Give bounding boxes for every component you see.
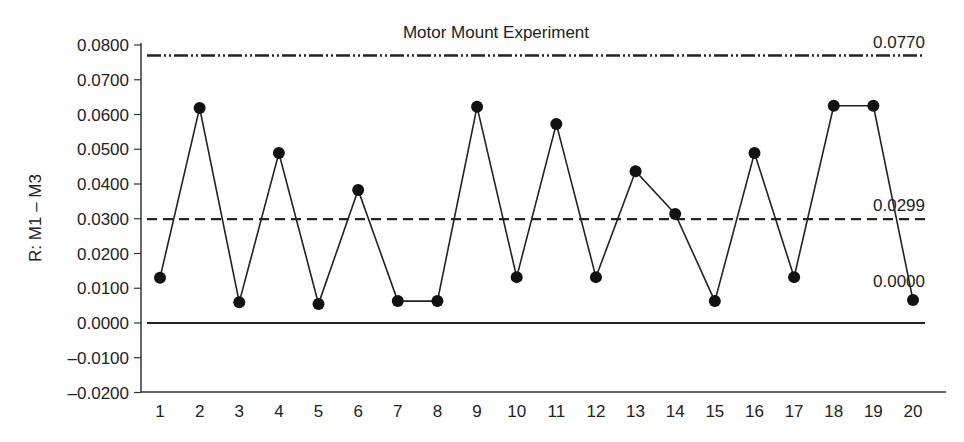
data-point bbox=[788, 271, 800, 283]
x-tick-label: 6 bbox=[353, 402, 362, 421]
chart-title: Motor Mount Experiment bbox=[403, 23, 589, 42]
data-point bbox=[471, 101, 483, 113]
y-tick-label: 0.0200 bbox=[77, 245, 129, 264]
data-point bbox=[154, 272, 166, 284]
data-point bbox=[669, 208, 681, 220]
x-tick-label: 12 bbox=[586, 402, 605, 421]
data-point bbox=[431, 295, 443, 307]
data-point bbox=[233, 296, 245, 308]
y-tick-label: 0.0100 bbox=[77, 279, 129, 298]
data-point bbox=[511, 271, 523, 283]
x-tick-label: 2 bbox=[195, 402, 204, 421]
y-tick-label: 0.0500 bbox=[77, 140, 129, 159]
data-point bbox=[590, 271, 602, 283]
x-tick-label: 19 bbox=[864, 402, 883, 421]
data-point bbox=[550, 118, 562, 130]
axes: 0.08000.07000.06000.05000.04000.03000.02… bbox=[68, 36, 946, 421]
data-point bbox=[352, 184, 364, 196]
data-point bbox=[867, 100, 879, 112]
x-tick-label: 7 bbox=[393, 402, 402, 421]
x-tick-label: 5 bbox=[314, 402, 323, 421]
y-tick-label: 0.0700 bbox=[77, 71, 129, 90]
y-tick-label: 0.0600 bbox=[77, 106, 129, 125]
data-point bbox=[748, 147, 760, 159]
y-tick-label: 0.0400 bbox=[77, 175, 129, 194]
y-tick-label: 0.0300 bbox=[77, 210, 129, 229]
x-tick-label: 8 bbox=[433, 402, 442, 421]
series-line bbox=[160, 106, 913, 304]
y-tick-label: 0.0800 bbox=[77, 36, 129, 55]
x-tick-label: 13 bbox=[626, 402, 645, 421]
data-point bbox=[313, 298, 325, 310]
data-point bbox=[709, 295, 721, 307]
x-tick-label: 1 bbox=[155, 402, 164, 421]
y-tick-label: –0.0100 bbox=[68, 349, 129, 368]
x-tick-label: 17 bbox=[785, 402, 804, 421]
x-tick-label: 3 bbox=[235, 402, 244, 421]
y-tick-label: 0.0000 bbox=[77, 314, 129, 333]
center-label: 0.0299 bbox=[873, 196, 925, 215]
y-tick-label: –0.0200 bbox=[68, 384, 129, 403]
data-point bbox=[392, 295, 404, 307]
control-limits: 0.07700.02990.0000 bbox=[147, 33, 925, 323]
data-point bbox=[630, 165, 642, 177]
ucl-label: 0.0770 bbox=[873, 33, 925, 52]
lcl-label: 0.0000 bbox=[873, 272, 925, 291]
x-tick-label: 15 bbox=[705, 402, 724, 421]
data-point bbox=[273, 147, 285, 159]
data-point bbox=[828, 100, 840, 112]
x-tick-label: 9 bbox=[472, 402, 481, 421]
x-tick-label: 14 bbox=[666, 402, 685, 421]
x-tick-label: 20 bbox=[904, 402, 923, 421]
x-tick-label: 4 bbox=[274, 402, 283, 421]
x-tick-label: 10 bbox=[507, 402, 526, 421]
data-series bbox=[154, 100, 919, 310]
data-point bbox=[907, 294, 919, 306]
y-axis-label: R: M1 – M3 bbox=[26, 174, 45, 262]
control-chart: Motor Mount Experiment R: M1 – M3 0.0800… bbox=[0, 0, 964, 442]
x-tick-label: 18 bbox=[824, 402, 843, 421]
x-tick-label: 16 bbox=[745, 402, 764, 421]
x-tick-label: 11 bbox=[547, 402, 565, 421]
data-point bbox=[194, 102, 206, 114]
